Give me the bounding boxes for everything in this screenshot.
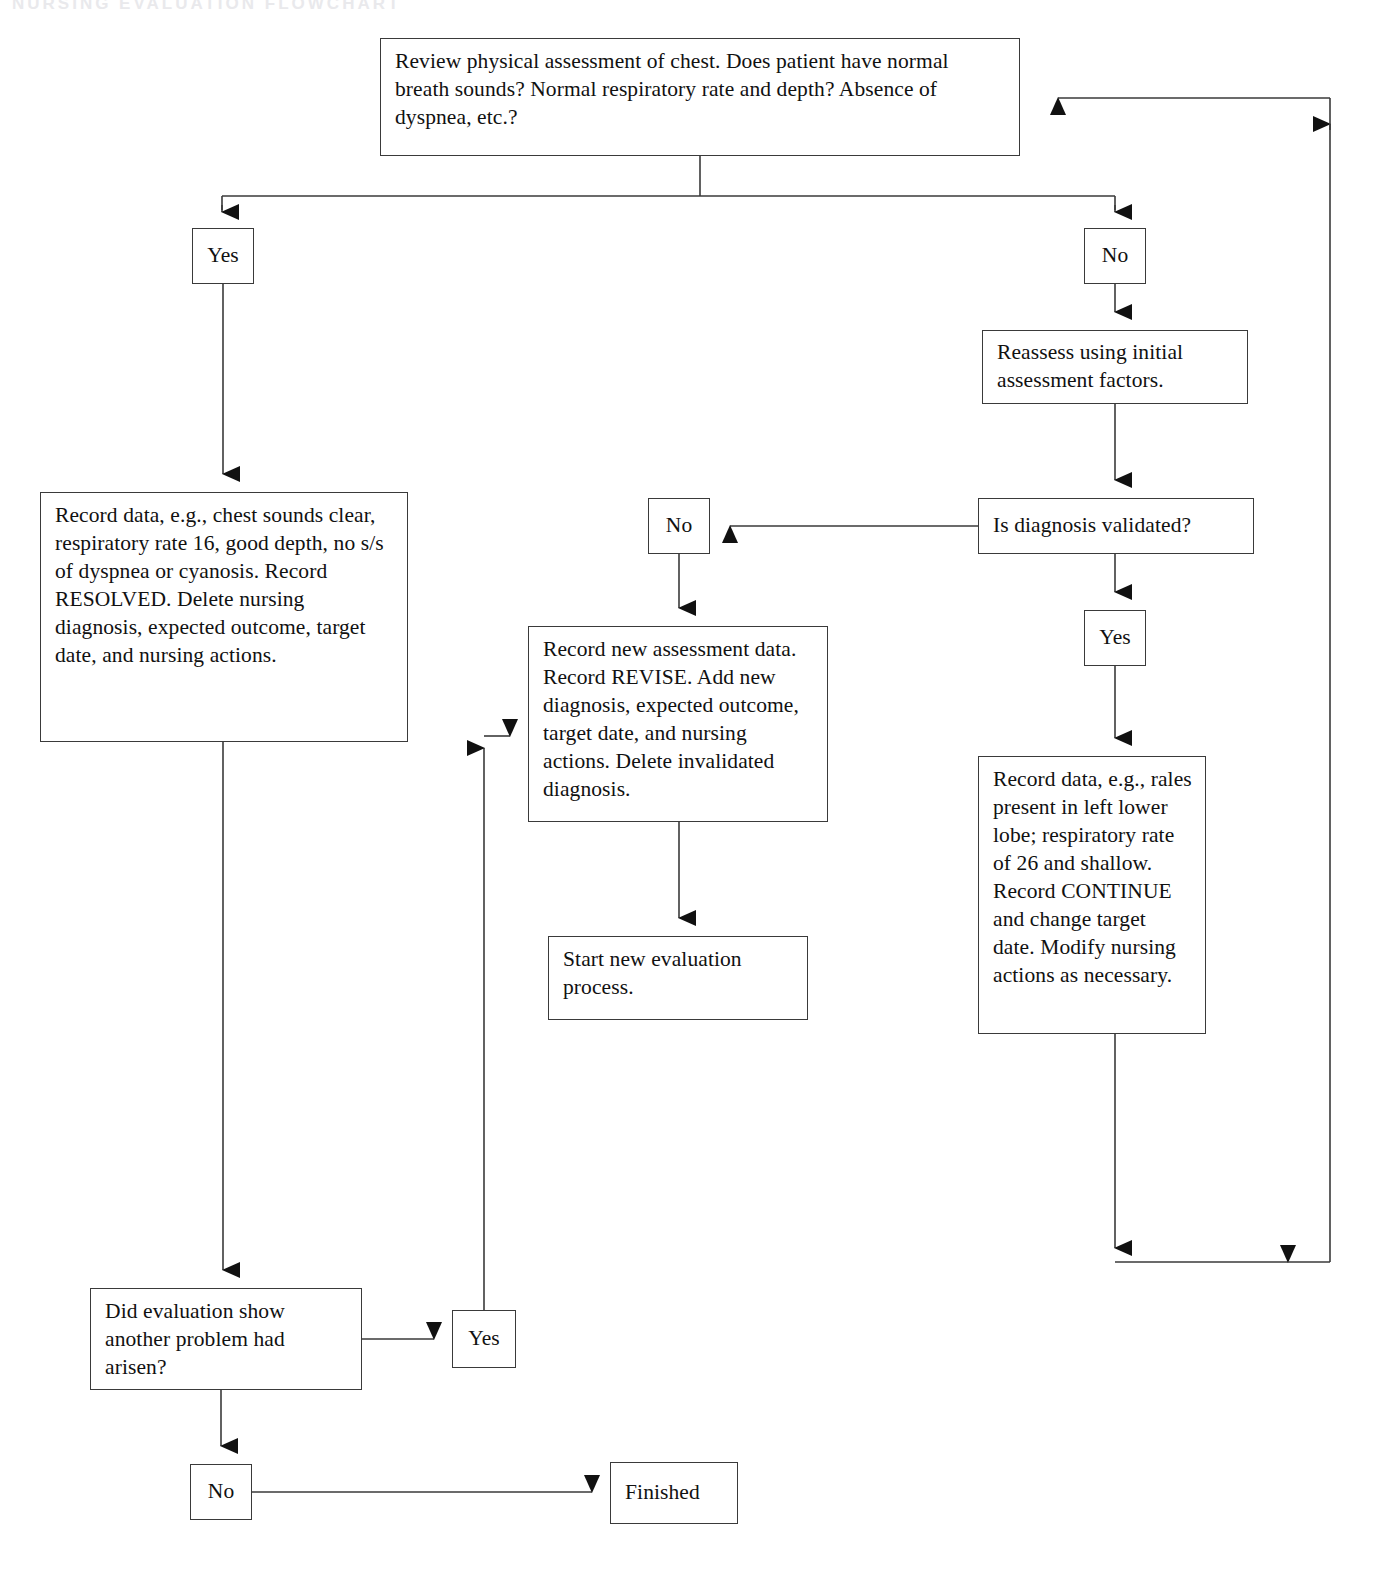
node-record-continue-text: Record data, e.g., rales present in left… xyxy=(993,767,1192,987)
node-record-revise[interactable]: Record new assessment data. Record REVIS… xyxy=(528,626,828,822)
node-yes-right-text: Yes xyxy=(1099,624,1131,652)
node-no-bottom-text: No xyxy=(208,1478,234,1506)
node-review-assessment[interactable]: Review physical assessment of chest. Doe… xyxy=(380,38,1020,156)
node-did-evaluation-show[interactable]: Did evaluation show another problem had … xyxy=(90,1288,362,1390)
node-yes-top-left-text: Yes xyxy=(207,242,239,270)
node-record-resolved[interactable]: Record data, e.g., chest sounds clear, r… xyxy=(40,492,408,742)
node-review-assessment-text: Review physical assessment of chest. Doe… xyxy=(395,49,949,129)
node-record-resolved-text: Record data, e.g., chest sounds clear, r… xyxy=(55,503,384,667)
node-is-diagnosis-validated[interactable]: Is diagnosis validated? xyxy=(978,498,1254,554)
node-reassess-text: Reassess using initial assessment factor… xyxy=(997,339,1235,395)
node-record-continue[interactable]: Record data, e.g., rales present in left… xyxy=(978,756,1206,1034)
node-finished-text: Finished xyxy=(625,1479,700,1507)
faint-page-header: NURSING EVALUATION FLOWCHART xyxy=(12,0,401,14)
node-yes-bottom-text: Yes xyxy=(468,1325,500,1353)
node-no-middle-text: No xyxy=(666,512,692,540)
node-no-top-right[interactable]: No xyxy=(1084,228,1146,284)
node-did-evaluation-show-text: Did evaluation show another problem had … xyxy=(105,1299,285,1379)
node-start-new-process-text: Start new evaluation process. xyxy=(563,947,742,999)
node-no-middle[interactable]: No xyxy=(648,498,710,554)
node-yes-right[interactable]: Yes xyxy=(1084,610,1146,666)
node-no-top-right-text: No xyxy=(1102,242,1128,270)
node-yes-bottom[interactable]: Yes xyxy=(452,1310,516,1368)
node-start-new-process[interactable]: Start new evaluation process. xyxy=(548,936,808,1020)
node-no-bottom[interactable]: No xyxy=(190,1464,252,1520)
flowchart-page: NURSING EVALUATION FLOWCHART xyxy=(0,0,1376,1584)
node-is-diagnosis-validated-text: Is diagnosis validated? xyxy=(993,512,1191,540)
node-yes-top-left[interactable]: Yes xyxy=(192,228,254,284)
node-finished[interactable]: Finished xyxy=(610,1462,738,1524)
node-record-revise-text: Record new assessment data. Record REVIS… xyxy=(543,637,799,801)
node-reassess[interactable]: Reassess using initial assessment factor… xyxy=(982,330,1248,404)
